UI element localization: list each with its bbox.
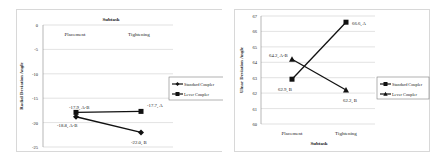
y-tick: 62 bbox=[253, 91, 258, 96]
lever-coupler-line bbox=[76, 111, 141, 112]
radial-deviation-chart: Subtask 0 -5 -10 -15 -20 -25 Radial Devi… bbox=[16, 9, 222, 152]
category-label: Placement bbox=[282, 131, 303, 136]
y-tick: 61 bbox=[253, 107, 258, 112]
square-marker-icon bbox=[139, 109, 144, 114]
square-marker-icon bbox=[290, 77, 295, 82]
y-ticks: 67 66 65 64 63 62 61 60 bbox=[253, 14, 258, 127]
y-tick: 65 bbox=[253, 45, 258, 50]
gridlines bbox=[261, 16, 375, 124]
data-label: -17.7, A bbox=[147, 103, 163, 109]
y-tick: -15 bbox=[32, 96, 39, 101]
y-tick: 66 bbox=[253, 29, 258, 34]
triangle-marker-icon bbox=[343, 87, 349, 93]
category-label: Tightening bbox=[335, 131, 357, 136]
square-marker-icon bbox=[344, 20, 349, 25]
data-label: -18.8, A-B bbox=[57, 123, 77, 129]
y-axis-label: Ulnar Deviation Angle bbox=[239, 47, 244, 93]
category-label: Placement bbox=[65, 32, 86, 37]
radial-chart-svg: Subtask 0 -5 -10 -15 -20 -25 Radial Devi… bbox=[17, 10, 223, 153]
data-label: 62.9, B bbox=[278, 87, 292, 93]
y-tick: 67 bbox=[253, 14, 258, 19]
standard-coupler-line bbox=[76, 117, 141, 133]
lever-coupler-line bbox=[292, 59, 346, 90]
chart-title: Subtask bbox=[102, 17, 119, 22]
data-label: 62.2, B bbox=[343, 98, 357, 104]
legend: Standard Coupler Lever Coupler bbox=[377, 77, 429, 99]
ulnar-deviation-chart: 67 66 65 64 63 62 61 60 Ulnar Deviation … bbox=[234, 9, 430, 152]
data-label: 66.6, A bbox=[352, 21, 367, 27]
y-axis-label: Radial Deviation Angle bbox=[19, 62, 24, 109]
ulnar-chart-svg: 67 66 65 64 63 62 61 60 Ulnar Deviation … bbox=[235, 10, 431, 153]
legend-label: Standard Coupler bbox=[184, 82, 215, 87]
category-label: Tightening bbox=[128, 32, 150, 37]
triangle-marker-icon bbox=[289, 56, 295, 62]
square-marker-icon bbox=[74, 110, 79, 115]
data-label: 64.2, A-B bbox=[269, 53, 288, 59]
legend-label: Lever Coupler bbox=[184, 92, 210, 97]
x-axis-label: Subtask bbox=[310, 141, 327, 146]
gridlines bbox=[43, 25, 173, 147]
y-tick: -25 bbox=[32, 145, 39, 150]
y-tick: -5 bbox=[34, 47, 38, 52]
y-tick: -20 bbox=[32, 121, 39, 126]
square-marker-icon bbox=[384, 82, 388, 86]
y-ticks: 0 -5 -10 -15 -20 -25 bbox=[32, 23, 39, 150]
y-tick: 60 bbox=[253, 122, 258, 127]
diamond-marker-icon bbox=[138, 129, 144, 135]
data-label: -17.9, A-B bbox=[69, 105, 89, 111]
y-tick: -10 bbox=[32, 72, 39, 77]
standard-coupler-line bbox=[292, 22, 346, 79]
legend: Standard Coupler Lever Coupler bbox=[169, 77, 223, 100]
data-label: -22.0, B bbox=[131, 140, 147, 146]
legend-label: Standard Coupler bbox=[392, 82, 423, 87]
y-tick: 63 bbox=[253, 76, 258, 81]
square-marker-icon bbox=[176, 92, 180, 96]
y-tick: 0 bbox=[36, 23, 39, 28]
legend-label: Lever Coupler bbox=[392, 92, 418, 97]
y-tick: 64 bbox=[253, 60, 258, 65]
